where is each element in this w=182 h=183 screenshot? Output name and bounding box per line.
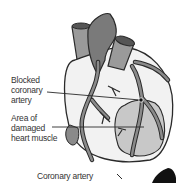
coronary-artery-arrow — [117, 174, 122, 179]
damaged-area-label-line2: damaged — [11, 123, 57, 133]
damaged-area-label-line1: Area of — [11, 113, 57, 123]
blocked-artery-label-line2: coronary — [11, 85, 42, 95]
damaged-area-label: Area of damaged heart muscle — [11, 113, 57, 143]
blocked-artery-label-line1: Blocked — [11, 75, 42, 85]
left-atrium-bulge — [66, 125, 79, 145]
artery-cross-section — [152, 168, 176, 183]
blocked-artery-label: Blocked coronary artery — [11, 75, 42, 105]
damaged-area-label-line3: heart muscle — [11, 133, 57, 143]
blocked-artery-label-line3: artery — [11, 95, 42, 105]
blockage-marker — [139, 98, 143, 102]
aorta-left-opening — [72, 23, 90, 29]
coronary-artery-label: Coronary artery — [37, 171, 93, 181]
